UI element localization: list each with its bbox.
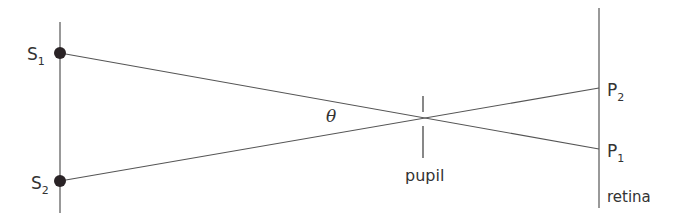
label-s2: S2 <box>31 173 49 197</box>
ray-diagram: S1 S2 P2 P1 θ pupil retina <box>0 0 689 220</box>
pupil-label: pupil <box>405 166 444 185</box>
retina-label: retina <box>607 188 651 206</box>
source-point-s1 <box>54 47 66 59</box>
label-p1: P1 <box>607 141 624 165</box>
source-point-s2 <box>54 175 66 187</box>
label-p2: P2 <box>607 80 624 104</box>
label-s1: S1 <box>27 44 45 68</box>
angle-theta-label: θ <box>326 106 336 126</box>
